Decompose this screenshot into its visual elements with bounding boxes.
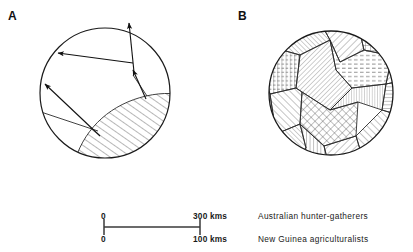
scale-top-right-label: 300 kms [193, 211, 227, 221]
legend-australian-hunter-gatherers: Australian hunter-gatherers [258, 211, 368, 221]
panel-label-a: A [8, 9, 17, 23]
figure-root: A B 0 300 kms 0 100 kms Australian hunte… [0, 0, 413, 252]
panel-label-b: B [238, 9, 247, 23]
scale-bottom-left-label: 0 [101, 234, 106, 244]
scale-top-left-label: 0 [101, 211, 106, 221]
scale-bar-graphic [104, 219, 200, 235]
scale-bottom-right-label: 100 kms [193, 234, 227, 244]
legend-new-guinea-agriculturalists: New Guinea agriculturalists [258, 234, 368, 244]
